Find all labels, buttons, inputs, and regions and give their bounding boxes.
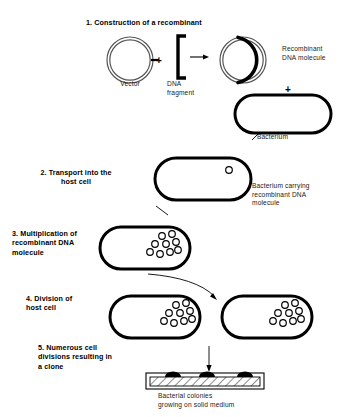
bacterial-colonies [165,371,253,377]
step-4-label: 4. Division ofhost cell [26,294,116,313]
plus-symbol-recombinant-bacterium: + [285,84,291,95]
step-3-label: 3. Multiplication ofrecombinant DNAmolec… [12,229,116,257]
bacterium-with-single-plasmid [155,158,251,200]
recombinant-dna-diagram: 1. Construction of a recombinant [0,0,348,417]
arrow-step2-to-step3 [156,206,168,215]
daughter-cell-right [222,296,312,338]
recombinant-caption: RecombinantDNA molecule [282,45,346,62]
colonies-caption: Bacterial coloniesgrowing on solid mediu… [158,392,278,409]
vector-caption: Vector [106,80,154,89]
bacterium-caption: Bacterium [257,133,317,142]
dna-fragment-bracket-icon [178,36,209,78]
daughter-cell-left [110,296,200,338]
dna-fragment-caption: DNAfragment [167,80,207,97]
arrow-step4-to-plate [206,346,211,372]
vector-plasmid-icon [107,37,159,83]
bacterium-carrying-caption: Bacterium carryingrecombinant DNAmolecul… [252,182,344,208]
step-5-label: 5. Numerous celldivisions resulting ina … [38,343,146,371]
petri-dish-icon [146,371,264,389]
step-2-label: 2. Transport into thehost cell [24,168,128,187]
bacterium-empty-shape [235,95,331,133]
plus-symbol-vector-fragment: + [156,55,162,66]
recombinant-plasmid-icon [220,37,266,83]
